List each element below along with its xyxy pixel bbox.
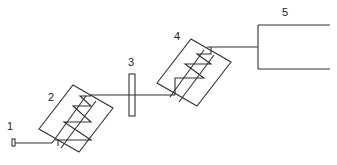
label-4: 4 bbox=[174, 30, 180, 42]
component-4-block bbox=[157, 39, 231, 106]
component-5-output bbox=[258, 25, 330, 69]
diagram-canvas: 1 2 3 4 5 bbox=[0, 0, 337, 165]
label-1: 1 bbox=[7, 120, 13, 132]
label-2: 2 bbox=[48, 91, 54, 103]
component-1-source bbox=[12, 139, 52, 146]
label-3: 3 bbox=[128, 56, 134, 68]
label-5: 5 bbox=[282, 6, 288, 18]
